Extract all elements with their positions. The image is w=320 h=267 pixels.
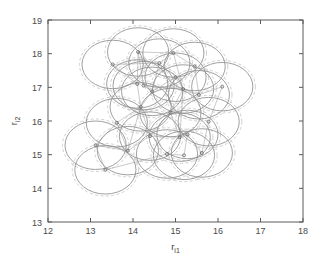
x-tick-label: 16 (213, 226, 223, 236)
y-tick-label: 18 (32, 49, 42, 59)
figure-container: 1213141516171813141516171819 ri1ri2 (0, 0, 320, 267)
y-tick-label: 19 (32, 16, 42, 26)
x-tick-label: 18 (298, 226, 308, 236)
y-tick-label: 15 (32, 150, 42, 160)
y-tick-label: 14 (32, 184, 42, 194)
x-tick-label: 17 (255, 226, 265, 236)
y-tick-label: 17 (32, 83, 42, 93)
x-tick-label: 14 (128, 226, 138, 236)
x-tick-label: 15 (170, 226, 180, 236)
y-tick-label: 16 (32, 117, 42, 127)
x-tick-label: 12 (43, 226, 53, 236)
y-tick-label: 13 (32, 218, 42, 228)
coverage-scatter-plot: 1213141516171813141516171819 ri1ri2 (0, 0, 320, 267)
x-tick-label: 13 (85, 226, 95, 236)
